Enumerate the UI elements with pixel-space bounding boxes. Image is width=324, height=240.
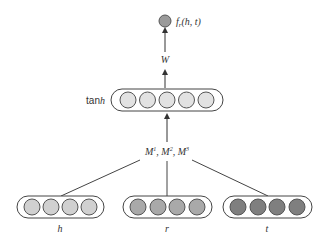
hidden-unit-icon [179,92,195,108]
output-label: fr(h, t) [176,16,202,29]
input-unit-icon [169,199,185,215]
input-h-label: h [58,223,63,234]
input-unit-icon [81,199,97,215]
input-unit-icon [230,199,246,215]
input-unit-icon [269,199,285,215]
input-unit-icon [250,199,266,215]
neural-tensor-diagram: fr(h, t) W tanh M1, M2, M3 h [0,0,324,240]
edge-t [192,160,268,196]
hidden-layer-label: tanh [86,95,105,106]
hidden-layer [111,89,223,111]
input-unit-icon [62,199,78,215]
hidden-unit-icon [140,92,156,108]
input-layer-t [223,196,312,218]
input-unit-icon [289,199,305,215]
input-unit-icon [130,199,146,215]
edge-h [61,160,140,196]
input-r-label: r [165,223,169,234]
input-unit-icon [43,199,59,215]
hidden-unit-icon [198,92,214,108]
hidden-unit-icon [159,92,175,108]
tensor-label: M1, M2, M3 [144,146,189,157]
output-node [159,15,171,27]
input-unit-icon [189,199,205,215]
input-t-label: t [266,223,269,234]
weight-label: W [161,54,171,65]
input-layer-h [17,196,104,218]
input-unit-icon [24,199,40,215]
hidden-unit-icon [120,92,136,108]
input-layer-r [123,196,212,218]
output-circle-icon [159,15,171,27]
input-unit-icon [150,199,166,215]
